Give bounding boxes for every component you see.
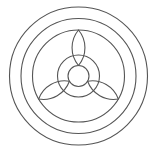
center-circle — [68, 66, 89, 87]
lower-left-petal — [39, 81, 70, 100]
outer-ring — [10, 7, 148, 145]
middle-ring — [21, 19, 136, 134]
lower-right-petal — [88, 81, 119, 100]
inner-ring — [33, 30, 125, 122]
trefoil-diagram — [0, 0, 154, 150]
top-petal — [72, 30, 85, 66]
